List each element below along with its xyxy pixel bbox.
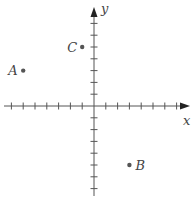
point-marker [127,163,131,167]
x-axis-arrow-icon [180,103,190,110]
y-axis-label: y [100,1,109,16]
point-c: C [67,40,84,55]
y-axis-arrow-icon [91,7,98,17]
x-axis-label: x [183,113,191,128]
point-b: B [127,158,145,173]
coordinate-plane: ABC x y [0,0,193,199]
point-label: B [134,158,145,173]
point-label: A [7,63,17,78]
point-label: C [67,40,77,55]
point-a: A [7,63,25,78]
point-marker [80,45,84,49]
point-marker [21,68,25,72]
